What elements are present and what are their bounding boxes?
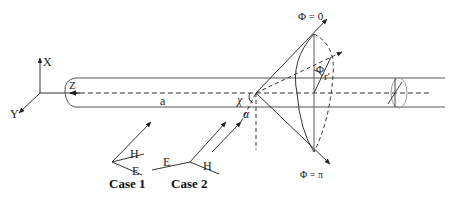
radius-label: a	[160, 94, 166, 108]
case-2-label: Case 2	[171, 176, 207, 191]
scattering-diagram: X Y Z a χ α Φ = 0 Φ = π Φ r'	[0, 0, 451, 198]
y-axis	[19, 93, 40, 113]
phi-label: Φ	[316, 63, 324, 75]
alpha-label: α	[243, 107, 250, 121]
chi-angle-arc	[249, 93, 253, 103]
x-axis-label: X	[43, 55, 52, 69]
case-2-propagation	[190, 122, 226, 162]
incident-wave	[212, 93, 256, 152]
case-1-h-vector	[112, 154, 144, 162]
cone-upper-generator	[256, 19, 327, 93]
scattering-cone	[256, 19, 342, 164]
case-2-h-label: H	[203, 159, 212, 173]
y-axis-label: Y	[10, 107, 19, 121]
cone-lower-generator	[256, 93, 330, 164]
incident-ray-solid	[212, 122, 241, 152]
case-2-e-vector	[152, 162, 190, 170]
phi-pi-label: Φ = π	[300, 169, 323, 180]
z-axis-label: Z	[69, 79, 76, 91]
case-1-h-label: H	[130, 147, 139, 161]
phi-zero-label: Φ = 0	[298, 10, 324, 22]
case-1-label: Case 1	[109, 176, 145, 191]
chi-label: χ	[236, 93, 243, 107]
cylinder	[65, 78, 445, 108]
r-prime-label: r'	[324, 70, 330, 82]
case-2-e-label: E	[163, 155, 170, 169]
